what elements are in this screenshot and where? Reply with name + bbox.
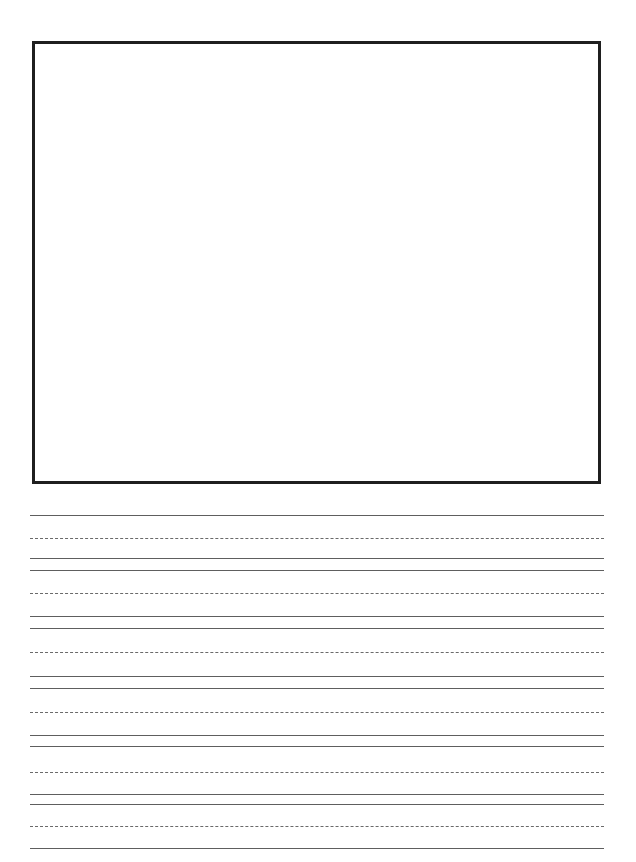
ruled-writing-area [0, 0, 636, 862]
rule-line-solid [30, 570, 604, 571]
rule-line-solid [30, 804, 604, 805]
rule-line-solid [30, 616, 604, 617]
worksheet-page [0, 0, 636, 862]
rule-line-dashed [30, 538, 604, 539]
rule-line-solid [30, 794, 604, 795]
rule-line-solid [30, 676, 604, 677]
rule-line-solid [30, 558, 604, 559]
rule-line-solid [30, 515, 604, 516]
rule-line-dashed [30, 593, 604, 594]
rule-line-solid [30, 628, 604, 629]
rule-line-solid [30, 735, 604, 736]
rule-line-dashed [30, 826, 604, 827]
rule-line-dashed [30, 712, 604, 713]
rule-line-solid [30, 688, 604, 689]
rule-line-solid [30, 746, 604, 747]
rule-line-dashed [30, 772, 604, 773]
rule-line-solid [30, 848, 604, 849]
rule-line-dashed [30, 652, 604, 653]
